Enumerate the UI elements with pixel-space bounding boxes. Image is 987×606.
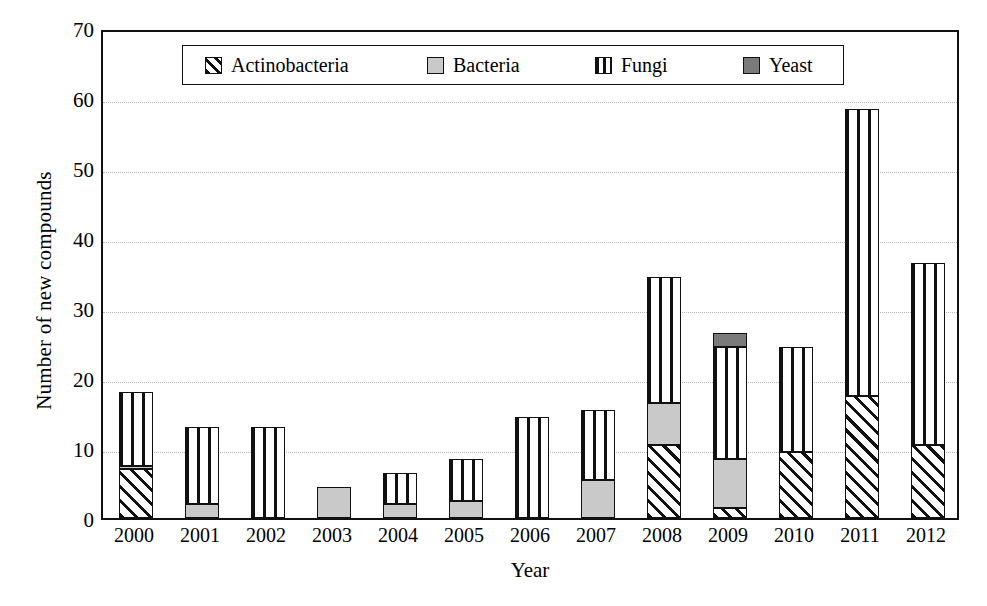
legend-label: Yeast — [769, 55, 813, 75]
bar-segment-2010-actinobacteria — [779, 452, 813, 519]
bar-chart: Number of new compounds 010203040506070 … — [0, 0, 987, 606]
bar-2001[interactable] — [185, 427, 219, 518]
bar-segment-2007-fungi — [581, 410, 615, 480]
bar-2011[interactable] — [845, 109, 879, 519]
x-tick-label-2008: 2008 — [642, 524, 682, 547]
bact-swatch-icon — [427, 57, 444, 74]
bar-segment-2008-actinobacteria — [647, 445, 681, 519]
x-tick-label-2004: 2004 — [378, 524, 418, 547]
bar-segment-2005-bacteria — [449, 501, 483, 519]
yeast-swatch-icon — [743, 57, 760, 74]
bar-segment-2008-bacteria — [647, 403, 681, 445]
legend-label: Bacteria — [453, 55, 520, 75]
y-tick-label-50: 50 — [32, 160, 94, 181]
bar-segment-2002-fungi — [251, 427, 285, 518]
x-tick-label-2001: 2001 — [180, 524, 220, 547]
bar-2009[interactable] — [713, 333, 747, 519]
bar-segment-2012-actinobacteria — [911, 445, 945, 519]
bar-segment-2004-fungi — [383, 473, 417, 505]
legend-item-bact[interactable]: Bacteria — [427, 55, 520, 75]
bar-segment-2000-fungi — [119, 392, 153, 466]
bar-segment-2010-fungi — [779, 347, 813, 452]
x-tick-label-2011: 2011 — [840, 524, 879, 547]
y-tick-label-30: 30 — [32, 300, 94, 321]
y-tick-label-20: 20 — [32, 370, 94, 391]
x-tick-label-2006: 2006 — [510, 524, 550, 547]
y-tick-label-0: 0 — [32, 510, 94, 531]
bar-segment-2001-fungi — [185, 427, 219, 504]
bar-segment-2001-bacteria — [185, 504, 219, 518]
bar-segment-2011-fungi — [845, 109, 879, 396]
fungi-swatch-icon — [595, 57, 612, 74]
bar-2010[interactable] — [779, 347, 813, 519]
bar-segment-2011-actinobacteria — [845, 396, 879, 519]
x-axis-title: Year — [101, 558, 959, 583]
y-tick-label-70: 70 — [32, 20, 94, 41]
actino-swatch-icon — [205, 57, 222, 74]
bar-2004[interactable] — [383, 473, 417, 519]
bar-segment-2009-actinobacteria — [713, 508, 747, 519]
bar-2008[interactable] — [647, 277, 681, 519]
y-axis-tick-labels: 010203040506070 — [24, 30, 94, 520]
x-axis-tick-labels: 2000200120022003200420052006200720082009… — [101, 524, 959, 558]
legend-item-fungi[interactable]: Fungi — [595, 55, 668, 75]
bar-2000[interactable] — [119, 392, 153, 518]
x-tick-label-2003: 2003 — [312, 524, 352, 547]
bar-series-container — [103, 32, 957, 518]
x-tick-label-2010: 2010 — [774, 524, 814, 547]
bar-segment-2000-actinobacteria — [119, 469, 153, 518]
y-tick-label-40: 40 — [32, 230, 94, 251]
x-tick-label-2000: 2000 — [114, 524, 154, 547]
chart-legend: ActinobacteriaBacteriaFungiYeast — [182, 45, 844, 85]
bar-segment-2009-bacteria — [713, 459, 747, 508]
bar-segment-2008-fungi — [647, 277, 681, 403]
y-tick-label-60: 60 — [32, 90, 94, 111]
x-tick-label-2009: 2009 — [708, 524, 748, 547]
legend-item-actino[interactable]: Actinobacteria — [205, 55, 349, 75]
bar-segment-2009-yeast — [713, 333, 747, 347]
bar-segment-2003-bacteria — [317, 487, 351, 519]
bar-2007[interactable] — [581, 410, 615, 519]
bar-2002[interactable] — [251, 427, 285, 518]
legend-label: Fungi — [621, 55, 668, 75]
x-tick-label-2002: 2002 — [246, 524, 286, 547]
bar-segment-2007-bacteria — [581, 480, 615, 519]
bar-2012[interactable] — [911, 263, 945, 519]
bar-segment-2012-fungi — [911, 263, 945, 445]
bar-segment-2009-fungi — [713, 347, 747, 459]
bar-segment-2004-bacteria — [383, 504, 417, 518]
bar-segment-2005-fungi — [449, 459, 483, 501]
x-tick-label-2007: 2007 — [576, 524, 616, 547]
bar-2003[interactable] — [317, 487, 351, 519]
legend-item-yeast[interactable]: Yeast — [743, 55, 813, 75]
x-tick-label-2012: 2012 — [906, 524, 946, 547]
plot-area — [101, 30, 959, 520]
bar-2005[interactable] — [449, 459, 483, 519]
bar-2006[interactable] — [515, 417, 549, 519]
legend-label: Actinobacteria — [231, 55, 349, 75]
x-tick-label-2005: 2005 — [444, 524, 484, 547]
bar-segment-2000-bacteria — [119, 466, 153, 470]
y-tick-label-10: 10 — [32, 440, 94, 461]
bar-segment-2006-fungi — [515, 417, 549, 519]
